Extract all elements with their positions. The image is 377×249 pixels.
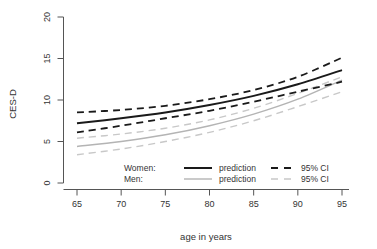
legend-label-men-ci: 95% CI — [301, 174, 329, 184]
x-tick-label: 90 — [293, 199, 303, 209]
legend-label-women: Women: — [124, 163, 156, 173]
chart-container: 05101520 65707580859095 CES-D age in yea… — [0, 0, 377, 249]
x-tick-label: 85 — [249, 199, 259, 209]
ces-d-age-line-chart: 05101520 65707580859095 CES-D age in yea… — [0, 0, 377, 249]
x-tick-label: 65 — [72, 199, 82, 209]
y-axis-title: CES-D — [7, 89, 18, 119]
y-tick-label: 10 — [42, 95, 52, 105]
y-tick-label: 20 — [42, 12, 52, 22]
legend-label-women-ci: 95% CI — [301, 163, 329, 173]
x-axis-title: age in years — [180, 231, 232, 242]
y-tick-label: 0 — [42, 180, 52, 185]
x-tick-label: 75 — [160, 199, 170, 209]
x-tick-label: 95 — [337, 199, 347, 209]
legend-label-men-prediction: prediction — [219, 174, 256, 184]
legend-label-men: Men: — [124, 174, 143, 184]
legend-label-women-prediction: prediction — [219, 163, 256, 173]
y-tick-label: 15 — [42, 53, 52, 63]
x-tick-label: 80 — [204, 199, 214, 209]
y-tick-label: 5 — [42, 139, 52, 144]
x-tick-label: 70 — [116, 199, 126, 209]
